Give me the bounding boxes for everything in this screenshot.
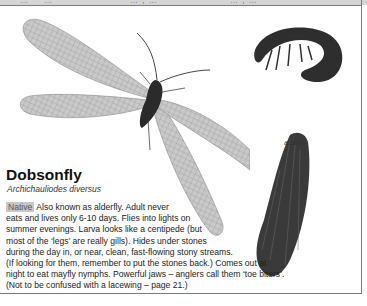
description-line: eats and lives only 6-10 days. Flies int… <box>6 213 244 224</box>
species-description: Native Also known as alderfly. Adult nev… <box>6 202 244 292</box>
description-text: Also known as alderfly. Adult never <box>34 202 169 212</box>
description-line: summer evenings. Larva looks like a cent… <box>6 224 244 235</box>
dobsonfly-adult-folded-image <box>250 130 360 290</box>
description-line: most of the ‘legs’ are really gills). Hi… <box>6 236 244 247</box>
description-line: night to eat mayfly nymphs. Powerful jaw… <box>6 269 244 280</box>
description-line: Native Also known as alderfly. Adult nev… <box>6 202 244 213</box>
native-badge: Native <box>6 202 34 212</box>
frame-border-bottom <box>0 293 362 294</box>
larva-label: larva <box>287 30 305 40</box>
species-title: Dobsonfly <box>6 166 82 184</box>
latin-name: Archichauliodes diversus <box>7 184 101 194</box>
description-line: (If looking for them, remember to put th… <box>6 258 244 269</box>
description-line: (Not to be confused with a lacewing – pa… <box>6 280 244 291</box>
frame-border-right <box>361 0 362 293</box>
adults-label: adults <box>284 137 306 147</box>
dobsonfly-larva-image <box>250 20 360 90</box>
description-line: during the day in, or near, clean, fast-… <box>6 247 244 258</box>
